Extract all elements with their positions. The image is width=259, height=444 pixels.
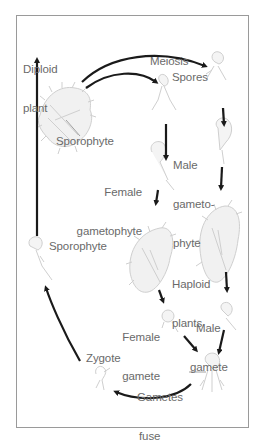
arrow-haploid-to-female-gamete	[159, 290, 163, 301]
label-male-gamete: Male gamete	[190, 296, 228, 387]
label-zygote: Zygote	[86, 352, 121, 365]
label-line: gamete	[190, 361, 228, 374]
arrow-diploid-to-meiosis	[86, 74, 156, 88]
label-line: plant	[23, 102, 57, 115]
label-sporophyte-left: Sporophyte	[49, 240, 107, 253]
label-line: Male	[173, 159, 215, 172]
label-line: Male	[190, 322, 228, 335]
label-diploid-plant: Diploid plant	[23, 37, 57, 128]
label-line: Haploid	[172, 278, 210, 291]
arrow-spores-to-male-gametophyte	[223, 108, 224, 124]
arrow-female-gametophyte-to-haploid	[156, 190, 158, 203]
label-line: Diploid	[23, 63, 57, 76]
label-line: phyte	[173, 237, 215, 250]
label-line: fuse	[137, 430, 183, 443]
label-meiosis: Meiosis	[150, 55, 188, 68]
arrow-haploid-to-male-gamete	[226, 272, 227, 290]
label-line: Female	[60, 186, 142, 199]
label-line: Gametes	[137, 391, 183, 404]
arrow-male-gametophyte-to-haploid	[221, 167, 222, 188]
label-line: gameto-	[173, 198, 215, 211]
label-line: Female	[110, 331, 160, 344]
arrow-zygote-to-sporophyte	[46, 288, 80, 361]
label-female-gametophyte: Female gametophyte	[60, 160, 142, 251]
label-line: gametophyte	[60, 225, 142, 238]
label-male-gametophyte: Male gameto- phyte	[173, 133, 215, 263]
label-gametes-fuse: Gametes fuse	[137, 365, 183, 444]
label-spores: Spores	[172, 71, 208, 84]
label-sporophyte-top: Sporophyte	[56, 135, 114, 148]
